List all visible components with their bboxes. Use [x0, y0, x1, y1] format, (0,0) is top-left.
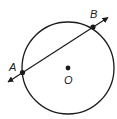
point-b	[90, 24, 95, 29]
label-o: O	[64, 74, 73, 86]
label-a: A	[8, 61, 16, 73]
label-b: B	[90, 8, 97, 20]
circle-secant-diagram: A B O	[0, 0, 117, 119]
center-point-o	[66, 66, 71, 71]
diagram-canvas: A B O	[0, 0, 117, 119]
point-a	[20, 70, 25, 75]
